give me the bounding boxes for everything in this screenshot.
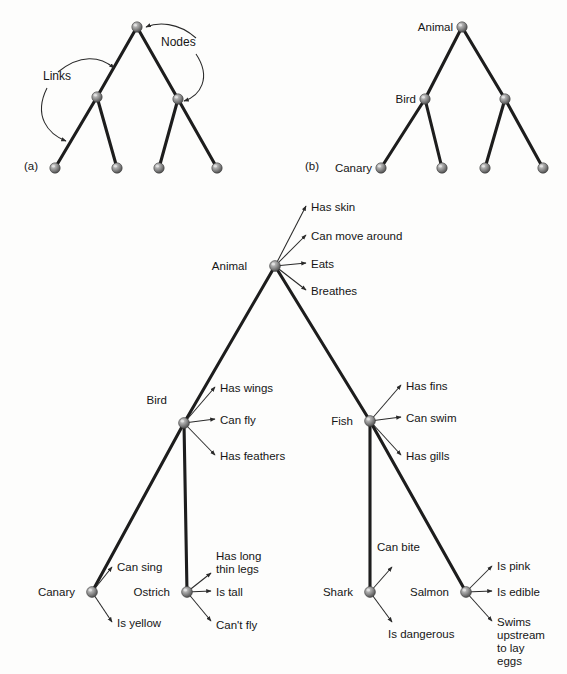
panel-b-node-bird (420, 94, 430, 104)
panel-a-link-0 (97, 27, 137, 97)
node-fish (365, 416, 376, 427)
panel-b-node-fish (500, 94, 510, 104)
panel-b-link-4 (485, 99, 505, 168)
nodes-to-midright-arrow (184, 54, 204, 101)
panel-a-node-leaf-1 (50, 163, 60, 173)
property-arrow-animal-breathes (275, 266, 306, 290)
property-label-bird-has-feathers: Has feathers (220, 450, 285, 462)
node-ostrich (182, 587, 193, 598)
property-label-animal-eats: Eats (311, 258, 334, 270)
panel-a-node-leaf-2 (112, 163, 122, 173)
panel-a-tag: (a) (24, 160, 38, 172)
node-bird (179, 418, 190, 429)
panel-a-nodes (50, 22, 222, 173)
property-label-animal-breathes: Breathes (311, 285, 357, 297)
semantic-network-figure: NodesLinks (a) AnimalBirdCanary (b) Has … (0, 0, 567, 674)
panel-b-link-1 (462, 27, 505, 99)
property-label-animal-has-skin: Has skin (311, 201, 355, 213)
panel-a-link-3 (97, 97, 117, 168)
panel-a-node-mid-right (173, 94, 183, 104)
panel-b-node-animal (457, 22, 467, 32)
panel-b-node-canary (376, 163, 386, 173)
node-label-ostrich: Ostrich (134, 586, 170, 598)
property-label-fish-can-swim: Can swim (406, 412, 456, 424)
panel-b-label-bird: Bird (396, 93, 416, 105)
property-arrow-animal-can-move-around (275, 235, 306, 266)
panel-b-node-shark (480, 163, 490, 173)
property-label-bird-has-wings: Has wings (220, 382, 273, 394)
property-arrow-animal-has-skin (275, 206, 306, 266)
panel-b-link-3 (425, 99, 442, 168)
node-label-fish: Fish (331, 415, 353, 427)
panel-a-node-leaf-3 (154, 163, 164, 173)
panel-b-link-2 (381, 99, 425, 168)
property-arrow-bird-has-wings (184, 387, 215, 423)
panel-a-annotation-nodes: Nodes (161, 35, 196, 49)
property-label-canary-can-sing: Can sing (117, 561, 162, 573)
property-label-bird-can-fly: Can fly (220, 414, 256, 426)
panel-a-node-root (132, 22, 142, 32)
panel-b-node-ostrich (437, 163, 447, 173)
property-arrow-bird-has-feathers (184, 423, 215, 455)
node-label-bird: Bird (147, 394, 167, 406)
panel-b-link-5 (505, 99, 543, 168)
link-animal-bird (184, 266, 275, 423)
node-label-canary: Canary (38, 586, 75, 598)
panel-a-link-4 (159, 99, 178, 168)
node-label-salmon: Salmon (410, 586, 449, 598)
property-label-shark-is-dangerous: Is dangerous (388, 628, 455, 640)
panel-a-link-2 (55, 97, 97, 168)
link-bird-ostrich (184, 423, 187, 592)
panel-b-label-canary: Canary (335, 162, 372, 174)
property-label-salmon-swims-upstream-to-lay-eggs: Swimsupstreamto layeggs (497, 616, 545, 667)
panel-b-tag: (b) (305, 160, 319, 172)
property-label-canary-is-yellow: Is yellow (117, 617, 162, 629)
property-label-ostrich-has-long-thin-legs: Has longthin legs (216, 550, 261, 575)
property-arrow-fish-has-fins (370, 385, 401, 421)
property-label-salmon-is-edible: Is edible (497, 586, 540, 598)
link-fish-salmon (370, 421, 466, 592)
property-label-animal-can-move-around: Can move around (311, 230, 402, 242)
node-animal (270, 261, 281, 272)
node-shark (365, 587, 376, 598)
panel-b-node-salmon (538, 163, 548, 173)
property-label-ostrich-is-tall: Is tall (216, 586, 243, 598)
node-salmon (461, 587, 472, 598)
panel-a-annotation-links: Links (43, 69, 71, 83)
links-to-lower-arrow (41, 88, 66, 141)
panel-a-node-mid-left (92, 92, 102, 102)
property-label-fish-has-gills: Has gills (406, 450, 450, 462)
panel-a-node-leaf-4 (212, 163, 222, 173)
panel-a-link-5 (178, 99, 217, 168)
panel-b-node-labels: AnimalBirdCanary (335, 21, 453, 174)
panel-b-link-0 (425, 27, 462, 99)
property-label-fish-has-fins: Has fins (406, 380, 448, 392)
node-label-shark: Shark (323, 586, 353, 598)
property-label-shark-can-bite: Can bite (377, 541, 420, 553)
node-canary (87, 587, 98, 598)
panel-b-label-animal: Animal (418, 21, 453, 33)
property-label-salmon-is-pink: Is pink (497, 560, 530, 572)
property-label-ostrich-can-t-fly: Can't fly (216, 619, 257, 631)
node-label-animal: Animal (212, 260, 247, 272)
property-arrow-salmon-swims-upstream-to-lay-eggs (466, 592, 492, 621)
